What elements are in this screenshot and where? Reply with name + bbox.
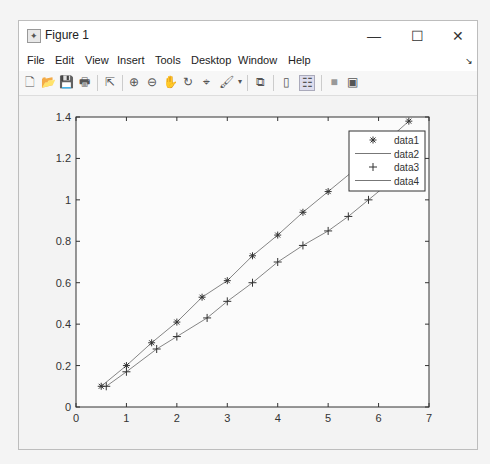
figure-toolbar: 🗋 📂 💾 🖶 ⇱ ⊕ ⊖ ✋ ↻ ⌖ 🖌 ▾ ⧉ ▯ ☷ ■ ▣ [19, 71, 477, 96]
legend-entry-data2: data2 [394, 149, 419, 160]
dock-arrow-icon[interactable]: ↘ [465, 56, 473, 66]
x-tick-label: 5 [325, 412, 331, 424]
menu-view[interactable]: View [85, 54, 109, 66]
y-tick-label: 1.2 [56, 152, 71, 164]
y-tick-label: 0.6 [56, 277, 71, 289]
print-icon[interactable]: 🖶 [77, 75, 91, 89]
colorbar-icon[interactable]: ▯ [279, 75, 293, 89]
rotate-3d-icon[interactable]: ↻ [181, 75, 195, 89]
legend-icon[interactable]: ☷ [299, 75, 315, 91]
title-bar[interactable]: ✦ Figure 1 — ☐ ✕ [19, 21, 477, 51]
y-tick-label: 0.2 [56, 360, 71, 372]
menu-file[interactable]: File [27, 54, 45, 66]
close-button[interactable]: ✕ [443, 25, 473, 47]
figure-window: ✦ Figure 1 — ☐ ✕ File Edit View Insert T… [18, 20, 478, 450]
x-tick-label: 4 [275, 412, 281, 424]
brush-icon[interactable]: 🖌 [219, 75, 233, 89]
new-figure-icon[interactable]: 🗋 [23, 75, 37, 89]
plot-axes[interactable]: 0123456700.20.40.60.811.21.4data1data2da… [19, 96, 477, 449]
window-title: Figure 1 [45, 28, 89, 42]
y-tick-label: 0 [65, 401, 71, 413]
minimize-button[interactable]: — [359, 25, 389, 47]
toolbar-separator [273, 75, 274, 91]
legend-entry-data3: data3 [394, 162, 419, 173]
show-plot-tools-icon[interactable]: ▣ [345, 75, 359, 89]
menu-edit[interactable]: Edit [55, 54, 74, 66]
x-tick-label: 7 [426, 412, 432, 424]
menu-window[interactable]: Window [238, 54, 277, 66]
zoom-in-icon[interactable]: ⊕ [127, 75, 141, 89]
menu-tools[interactable]: Tools [155, 54, 181, 66]
menu-insert[interactable]: Insert [117, 54, 145, 66]
x-tick-label: 3 [224, 412, 230, 424]
legend-entry-data4: data4 [394, 176, 419, 187]
toolbar-separator [321, 75, 322, 91]
figure-canvas: 0123456700.20.40.60.811.21.4data1data2da… [19, 96, 477, 449]
zoom-out-icon[interactable]: ⊖ [145, 75, 159, 89]
brush-dropdown-icon[interactable]: ▾ [233, 75, 247, 89]
menu-desktop[interactable]: Desktop [191, 54, 231, 66]
save-icon[interactable]: 💾 [59, 75, 73, 89]
y-tick-label: 1 [65, 194, 71, 206]
edit-plot-icon[interactable]: ⇱ [103, 75, 117, 89]
x-tick-label: 6 [376, 412, 382, 424]
data-cursor-icon[interactable]: ⌖ [199, 75, 213, 89]
toolbar-separator [97, 75, 98, 91]
matlab-figure-icon: ✦ [27, 29, 41, 43]
y-tick-label: 0.8 [56, 235, 71, 247]
menu-bar: File Edit View Insert Tools Desktop Wind… [19, 51, 477, 71]
y-tick-label: 0.4 [56, 318, 71, 330]
toolbar-separator [122, 75, 123, 91]
legend-entry-data1: data1 [394, 135, 419, 146]
open-file-icon[interactable]: 📂 [41, 75, 55, 89]
x-tick-label: 0 [73, 412, 79, 424]
x-tick-label: 1 [123, 412, 129, 424]
maximize-button[interactable]: ☐ [402, 25, 432, 47]
link-plot-icon[interactable]: ⧉ [253, 75, 267, 89]
toolbar-separator [247, 75, 248, 91]
pan-icon[interactable]: ✋ [163, 75, 177, 89]
y-tick-label: 1.4 [56, 111, 71, 123]
hide-plot-tools-icon[interactable]: ■ [327, 75, 341, 89]
x-tick-label: 2 [174, 412, 180, 424]
menu-help[interactable]: Help [288, 54, 311, 66]
